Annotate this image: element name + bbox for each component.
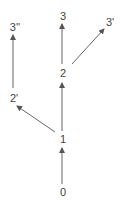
node-1: 1 bbox=[60, 134, 66, 145]
node-2-prime: 2' bbox=[10, 93, 18, 104]
node-2: 2 bbox=[60, 68, 66, 79]
edge-2-3prime bbox=[72, 29, 104, 64]
node-3-double-prime: 3'' bbox=[10, 22, 20, 33]
node-3: 3 bbox=[60, 11, 66, 22]
edge-1-2prime bbox=[17, 106, 55, 132]
node-3-prime: 3' bbox=[106, 17, 114, 28]
node-0: 0 bbox=[60, 187, 66, 198]
